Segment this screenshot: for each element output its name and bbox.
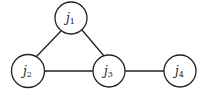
node-j1: j1 [55, 2, 87, 34]
graph-diagram: j1 j2 j3 j4 [0, 0, 203, 95]
edge-j1-j2 [36, 31, 61, 57]
node-j3: j3 [93, 55, 125, 87]
node-j2: j2 [12, 55, 45, 88]
edge-j1-j3 [82, 30, 104, 56]
node-j4: j4 [164, 55, 196, 87]
